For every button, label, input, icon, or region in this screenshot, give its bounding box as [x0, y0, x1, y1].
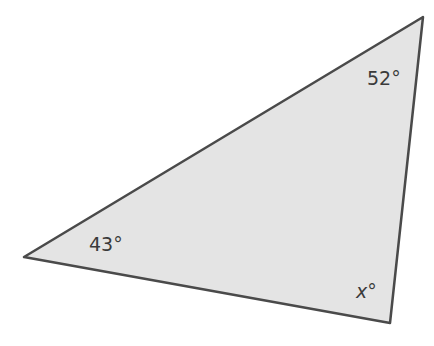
- angle-label-bottom-right: x°: [355, 280, 377, 302]
- angle-label-top-right: 52°: [367, 67, 401, 89]
- triangle-diagram: 52° 43° x°: [0, 0, 434, 346]
- angle-label-left: 43°: [89, 233, 123, 255]
- triangle-shape: [24, 17, 423, 323]
